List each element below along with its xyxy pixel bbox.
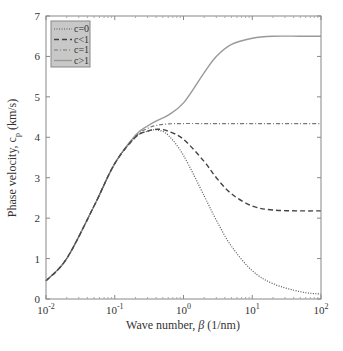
legend: c=0c<1c=1c>1 (51, 21, 90, 67)
y-tick-label: 7 (35, 10, 41, 22)
legend-label: c>1 (74, 55, 89, 66)
data-curves (46, 36, 321, 294)
x-axis-label: Wave number, β (1/nm) (126, 318, 240, 332)
y-tick-label: 2 (35, 212, 41, 224)
curve-c-0 (46, 130, 321, 294)
legend-label: c=1 (74, 44, 89, 55)
curve-c-1 (46, 36, 321, 281)
y-tick-label: 1 (35, 253, 41, 265)
x-tick-label: 10-1 (106, 302, 124, 316)
x-tick-label: 100 (176, 302, 191, 316)
phase-velocity-chart: 0123456710-210-1100101102 c=0c<1c=1c>1 W… (0, 0, 343, 351)
y-tick-label: 6 (35, 50, 41, 62)
legend-label: c=0 (74, 23, 89, 34)
curve-c-1 (46, 124, 321, 281)
x-tick-label: 10-2 (37, 302, 55, 316)
y-tick-label: 3 (35, 172, 41, 184)
y-axis-label: Phase velocity, cp (km/s) (5, 99, 22, 218)
x-tick-label: 102 (314, 302, 329, 316)
x-tick-label: 101 (245, 302, 260, 316)
legend-label: c<1 (74, 34, 89, 45)
y-tick-label: 5 (35, 91, 41, 103)
y-tick-label: 4 (35, 131, 41, 143)
curve-c-1 (46, 129, 321, 281)
